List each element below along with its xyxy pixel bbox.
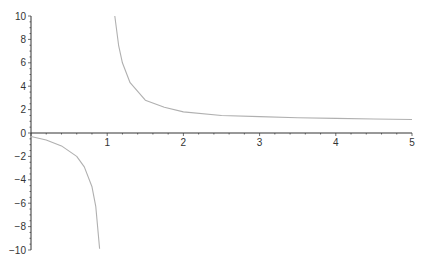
y-tick-label: −4 [15,174,27,185]
x-tick-label: 2 [181,137,187,148]
curves [31,16,412,249]
y-tick-label: −6 [15,198,27,209]
y-tick-label: 8 [20,34,26,45]
y-tick-label: 4 [20,81,26,92]
x-tick-label: 3 [257,137,263,148]
curve-branch [115,16,412,120]
x-tick-label: 5 [409,137,415,148]
y-tick-label: 6 [20,57,26,68]
y-tick-label: −8 [15,221,27,232]
x-tick-label: 4 [333,137,339,148]
x-tick-label: 1 [104,137,110,148]
y-tick-label: −2 [15,151,27,162]
y-tick-label: 2 [20,104,26,115]
axes: 1086420−2−4−6−8−1012345 [9,11,415,256]
y-tick-label: 0 [20,128,26,139]
y-tick-label: −10 [9,245,26,256]
curve-branch [31,137,100,249]
y-tick-label: 10 [15,11,27,22]
function-plot: 1086420−2−4−6−8−1012345 [0,0,430,268]
